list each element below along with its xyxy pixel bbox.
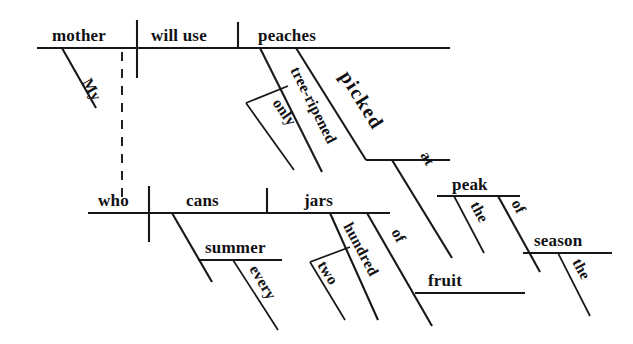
- word-summer: summer: [205, 238, 266, 257]
- word-jars: jars: [303, 191, 333, 210]
- word-of-fruit: of: [388, 225, 410, 245]
- word-only: only: [270, 95, 301, 129]
- word-cans: cans: [186, 191, 219, 210]
- word-the-season: the: [569, 255, 594, 282]
- word-my: My: [79, 75, 105, 103]
- word-peaches: peaches: [258, 26, 316, 45]
- word-season: season: [534, 231, 583, 250]
- word-of-season: of: [508, 196, 530, 216]
- diagram-canvas: mother will use peaches My tree-ripened …: [0, 0, 633, 344]
- word-fruit: fruit: [428, 271, 462, 290]
- word-the-peak: the: [467, 198, 492, 225]
- word-mother: mother: [52, 26, 106, 45]
- word-at: at: [417, 148, 439, 169]
- word-will-use: will use: [151, 26, 207, 45]
- word-who: who: [98, 191, 129, 210]
- preposition-line-at: [392, 160, 452, 258]
- word-two: two: [314, 258, 342, 288]
- word-peak: peak: [452, 175, 488, 194]
- sentence-diagram: mother will use peaches My tree-ripened …: [0, 0, 633, 344]
- word-every: every: [246, 262, 280, 303]
